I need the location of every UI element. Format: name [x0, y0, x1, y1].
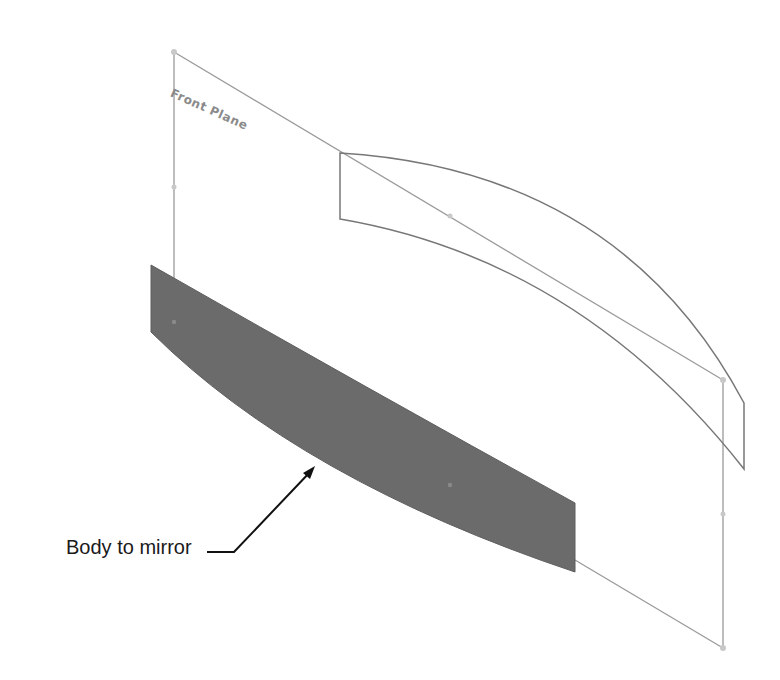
- body-vertex-dot: [448, 483, 452, 487]
- graphics-area: [0, 0, 780, 680]
- body-vertex-dot: [172, 320, 176, 324]
- body-to-mirror-label: Body to mirror: [66, 536, 192, 559]
- callout-leader: [207, 471, 311, 552]
- body-to-mirror[interactable]: [151, 265, 575, 572]
